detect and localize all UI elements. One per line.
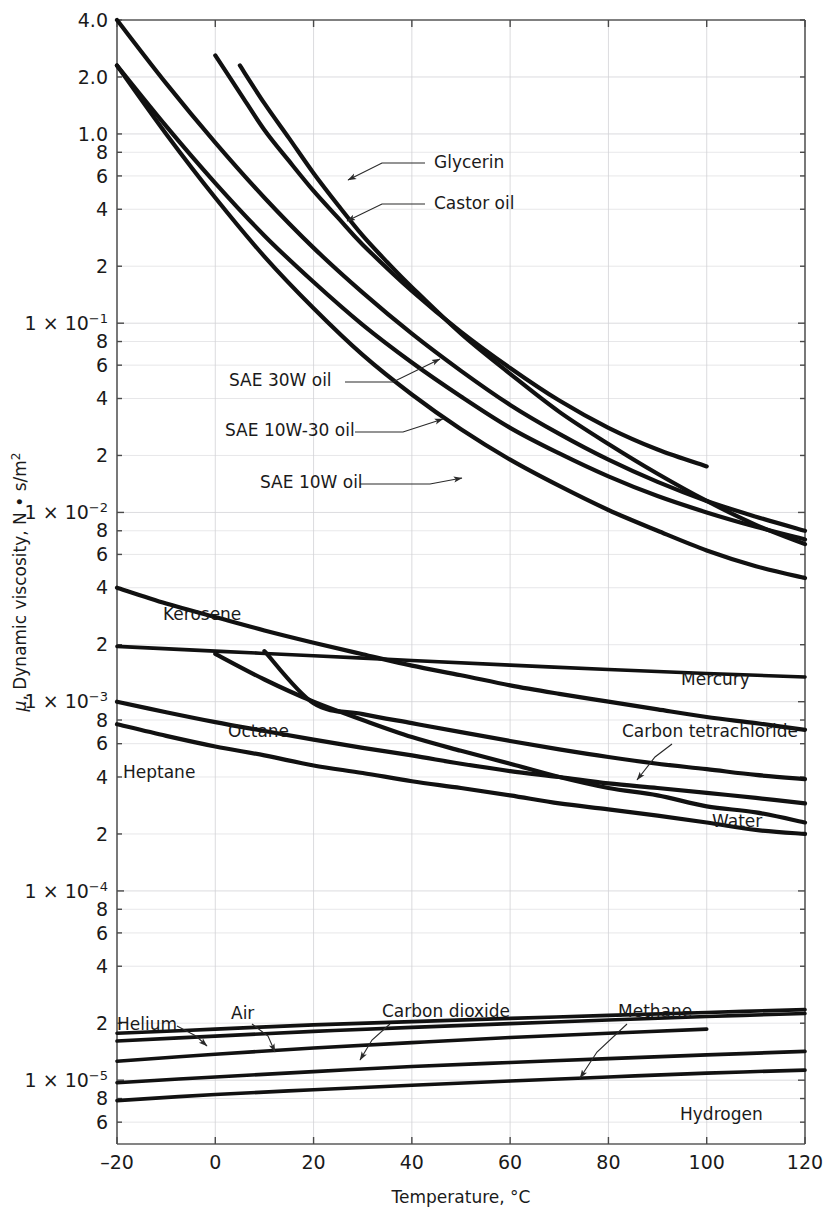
y-tick-label: 8 [96,330,108,352]
curve-sae-30w-oil: SAE 30W oil [117,20,805,531]
y-tick-label: 6 [96,354,108,376]
y-tick-label: 4.0 [78,9,108,31]
y-tick-label: 4 [96,198,108,220]
curve-annotations: GlycerinCastor oilSAE 30W oilSAE 10W-30 … [117,152,798,1124]
leader-line [348,163,425,180]
curve-label-octane: Octane [228,721,289,741]
y-tick-label: 2 [96,633,108,655]
y-tick-label: 4 [96,766,108,788]
y-tick-label: 8 [96,141,108,163]
curve-hydrogen: Hydrogen [117,1070,805,1100]
y-tick-label: 6 [96,1111,108,1133]
y-tick-label: 8 [96,1087,108,1109]
curve-sae-10w-30-oil: SAE 10W-30 oil [117,65,805,539]
data-curves: GlycerinCastor oilSAE 30W oilSAE 10W-30 … [117,20,805,1101]
curve-label-heptane: Heptane [123,762,195,782]
x-tick-label: 60 [498,1151,522,1173]
curve-label-sae-10w-oil: SAE 10W oil [260,472,363,492]
y-tick-label: 8 [96,519,108,541]
y-tick-label: 2.0 [78,66,108,88]
curve-label-sae-10w-30-oil: SAE 10W-30 oil [225,420,355,440]
y-tick-labels: 4.02.01.086421 × 10−186421 × 10−286421 ×… [25,9,108,1133]
x-tick-label: –20 [100,1151,134,1173]
x-tick-label: 40 [400,1151,424,1173]
curve-label-glycerin: Glycerin [434,152,504,172]
curve-label-water: Water [712,811,762,831]
leader-line [355,419,443,432]
axis-titles: Temperature, °Cμ, Dynamic viscosity, N •… [9,453,530,1207]
y-axis-title: μ, Dynamic viscosity, N • s/m2 [9,453,30,713]
y-tick-label: 2 [96,444,108,466]
leader-line [360,478,462,484]
y-tick-label: 2 [96,255,108,277]
x-tick-label: 100 [689,1151,725,1173]
x-tick-label: 80 [596,1151,620,1173]
y-tick-label: 8 [96,709,108,731]
y-tick-label: 8 [96,898,108,920]
y-tick-label: 4 [96,387,108,409]
x-axis-title: Temperature, °C [391,1187,531,1207]
y-tick-label: 2 [96,823,108,845]
y-tick-label: 6 [96,732,108,754]
x-tick-label: 0 [209,1151,221,1173]
curve-label-carbon-tetrachloride: Carbon tetrachloride [622,721,798,741]
curve-label-carbon-dioxide: Carbon dioxide [382,1001,510,1021]
viscosity-chart-figure: 4.02.01.086421 × 10−186421 × 10−286421 ×… [0,0,831,1209]
y-tick-label: 6 [96,543,108,565]
x-tick-labels: –20020406080100120 [100,1151,823,1173]
x-tick-label: 120 [787,1151,823,1173]
x-tick-label: 20 [301,1151,325,1173]
chart-canvas: 4.02.01.086421 × 10−186421 × 10−286421 ×… [0,0,831,1209]
curve-label-mercury: Mercury [681,669,750,689]
curve-label-castor-oil: Castor oil [434,193,514,213]
leader-line [347,204,425,221]
curve-label-sae-30w-oil: SAE 30W oil [229,370,332,390]
curve-label-air: Air [231,1003,254,1023]
curve-label-kerosene: Kerosene [163,604,241,624]
curve-label-methane: Methane [618,1001,692,1021]
y-tick-label: 4 [96,576,108,598]
y-tick-label: 4 [96,955,108,977]
curve-label-helium: Helium [117,1014,177,1034]
y-tick-label: 6 [96,165,108,187]
curve-methane: Methane [117,1051,805,1082]
curve-label-hydrogen: Hydrogen [680,1104,763,1124]
y-tick-label: 2 [96,1012,108,1034]
y-tick-label: 6 [96,922,108,944]
